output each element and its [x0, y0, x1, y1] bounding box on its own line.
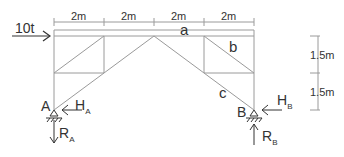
dim-v-1: 1.5m [310, 49, 334, 61]
support-b-label: B [237, 104, 246, 120]
dim-h-2: 2m [121, 10, 136, 22]
dim-h-1: 2m [71, 10, 86, 22]
member-a-label: a [180, 21, 188, 38]
member-c-label: c [219, 84, 227, 101]
hb-label: HB [277, 92, 292, 111]
ra-label: RA [59, 125, 74, 144]
support-a-label: A [41, 98, 50, 114]
truss-diagram [0, 0, 344, 157]
dim-v-2: 1.5m [310, 86, 334, 98]
rb-label: RB [262, 128, 277, 147]
ha-label: HA [75, 97, 90, 116]
dim-h-4: 2m [221, 10, 236, 22]
member-b-label: b [229, 38, 237, 55]
load-label: 10t [15, 20, 34, 36]
